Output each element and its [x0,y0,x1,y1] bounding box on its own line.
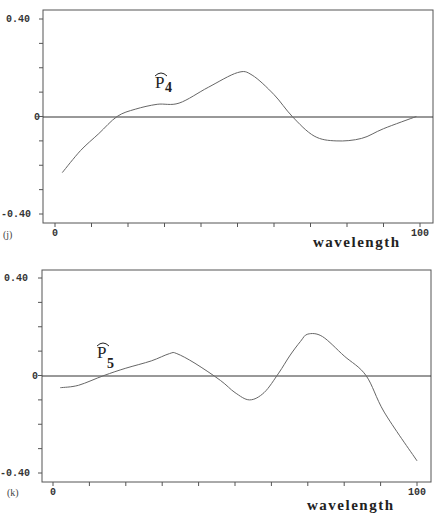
figure: 0.40 0 -0.40 0 100 (j) wavelength P 4 0.… [0,0,440,523]
x-tick-label-left: 0 [52,228,58,239]
y-tick-label-top: 0.40 [6,14,30,25]
x-axis-label: wavelength [307,497,395,513]
curve-label-sub: 4 [165,80,172,95]
y-ticks [38,278,42,473]
panel-label: (k) [7,487,19,499]
x-tick-label-right: 100 [411,228,429,239]
panel-j: 0.40 0 -0.40 0 100 (j) wavelength P 4 [1,10,433,250]
curve-label-base: P [97,343,106,362]
curve-label-p4: P 4 [155,73,172,95]
x-axis-label: wavelength [313,234,401,250]
y-tick-label-bottom: -0.40 [0,468,30,479]
curve-label-sub: 5 [107,356,114,371]
y-tick-label-bottom: -0.40 [1,209,31,220]
x-ticks [55,223,420,227]
curve-p4 [62,72,416,173]
x-ticks [53,482,417,486]
panel-label: (j) [3,229,12,241]
curve-label-base: P [155,73,164,92]
y-tick-label-zero: 0 [32,371,38,382]
x-tick-label-right: 100 [408,487,426,498]
curve-p5 [60,334,417,461]
y-tick-label-top: 0.40 [4,273,28,284]
panel-k: 0.40 0 -0.40 0 100 (k) wavelength P 5 [0,270,431,513]
curve-label-p5: P 5 [97,343,114,371]
x-tick-label-left: 0 [50,487,56,498]
y-tick-label-zero: 0 [34,112,40,123]
